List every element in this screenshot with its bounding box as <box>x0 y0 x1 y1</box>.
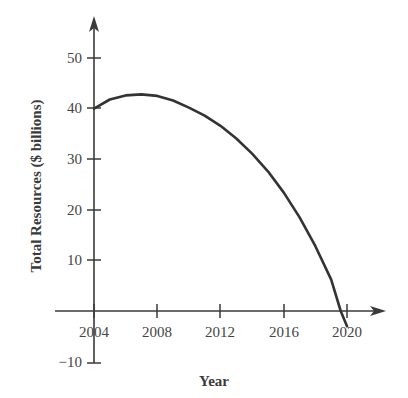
x-tick-label-2016: 2016 <box>269 324 300 340</box>
x-tick-label-2004: 2004 <box>79 324 110 340</box>
x-tick-label-2012: 2012 <box>205 324 235 340</box>
x-axis-title: Year <box>199 373 229 389</box>
y-tick-label-neg10: −10 <box>59 354 82 370</box>
y-tick-labels: 50 40 30 20 10 −10 <box>59 50 82 370</box>
chart-canvas: 50 40 30 20 10 −10 2004 2008 2012 2016 2… <box>0 0 408 398</box>
x-tick-label-2008: 2008 <box>142 324 172 340</box>
y-axis-title: Total Resources ($ billions) <box>28 100 45 273</box>
y-tick-label-30: 30 <box>67 151 82 167</box>
y-tick-label-10: 10 <box>67 252 82 268</box>
y-tick-label-20: 20 <box>67 202 82 218</box>
y-tick-label-40: 40 <box>67 100 82 116</box>
y-tick-label-50: 50 <box>67 50 82 66</box>
x-tick-labels: 2004 2008 2012 2016 2020 <box>79 324 362 340</box>
resources-curve <box>94 94 347 326</box>
